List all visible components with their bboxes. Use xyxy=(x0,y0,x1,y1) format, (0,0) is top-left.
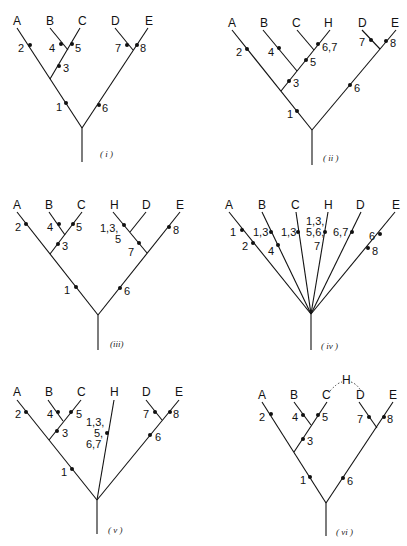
character-label: 7 xyxy=(357,413,363,425)
taxon-label: C xyxy=(77,385,86,399)
character-label: 5 xyxy=(76,408,82,420)
character-label: 3 xyxy=(63,62,69,74)
character-label: 4 xyxy=(268,245,274,257)
character-label: 4 xyxy=(292,411,298,423)
taxon-label: H xyxy=(324,198,333,212)
character-label: 3 xyxy=(62,240,68,252)
character-label: 8 xyxy=(173,408,179,420)
character-label: 8 xyxy=(390,37,396,49)
taxon-label: C xyxy=(78,14,87,28)
character-label: 1 xyxy=(64,284,70,296)
character-label: 1,3 xyxy=(253,226,268,238)
character-label: 4 xyxy=(49,42,55,54)
taxon-label: H xyxy=(110,385,119,399)
character-label: 1 xyxy=(61,466,67,478)
character-label: 7 xyxy=(128,246,134,258)
character-label: 7 xyxy=(314,240,320,252)
taxon-label: B xyxy=(46,14,54,28)
character-label: 3 xyxy=(62,427,68,439)
character-label: 4 xyxy=(47,221,53,233)
cladogram-panel-v: A B C H D E 2 4 5 3 1 1,3, 5, 6,7 7 8 6 … xyxy=(13,385,183,535)
character-label: 6,7 xyxy=(333,226,348,238)
panel-caption: (iii) xyxy=(110,339,124,349)
taxon-label: H xyxy=(342,373,351,387)
taxon-label: A xyxy=(258,388,266,402)
taxon-label: A xyxy=(228,16,236,30)
character-label: 1 xyxy=(56,101,62,113)
taxon-label: D xyxy=(356,388,365,402)
character-label: 6 xyxy=(155,431,161,443)
character-label: 5 xyxy=(115,233,121,245)
cladogram-panel-iii: A B C H D E 2 4 5 3 1 1,3, 5 7 8 6 (iii) xyxy=(13,198,184,350)
taxon-label: D xyxy=(356,198,365,212)
character-label: 2 xyxy=(259,411,265,423)
taxon-label: E xyxy=(145,14,153,28)
character-label: 8 xyxy=(372,245,378,257)
panel-caption: ( ii ) xyxy=(323,153,339,163)
cladogram-panel-iv: A B C H D E 1 2 1,3 4 1,3 1,3, 5,6, 7 6,… xyxy=(225,198,400,351)
character-label: 2 xyxy=(242,240,248,252)
taxon-label: B xyxy=(260,16,268,30)
character-label: 5 xyxy=(76,221,82,233)
taxon-label: E xyxy=(176,198,184,212)
taxon-label: B xyxy=(258,198,266,212)
taxon-label: E xyxy=(392,198,400,212)
taxon-label: D xyxy=(142,385,151,399)
character-label: 2 xyxy=(236,46,242,58)
panel-caption: ( i ) xyxy=(100,149,113,159)
character-label: 4 xyxy=(268,46,274,58)
character-label: 8 xyxy=(387,413,393,425)
taxon-label: A xyxy=(13,14,21,28)
taxon-label: D xyxy=(358,16,367,30)
character-label: 6,7 xyxy=(322,41,337,53)
taxon-label: D xyxy=(111,14,120,28)
character-label: 2 xyxy=(15,408,21,420)
taxon-label: A xyxy=(13,385,21,399)
taxon-label: E xyxy=(389,388,397,402)
taxon-label: C xyxy=(292,16,301,30)
character-label: 5 xyxy=(75,42,81,54)
cladogram-figure: A B C D E 2 4 5 3 1 7 8 6 ( i ) A B C H xyxy=(0,0,407,546)
taxon-label: D xyxy=(142,198,151,212)
taxon-label: E xyxy=(391,16,399,30)
character-label: 1 xyxy=(230,226,236,238)
character-label: 5 xyxy=(310,56,316,68)
character-label: 1 xyxy=(287,108,293,120)
taxon-label: H xyxy=(110,198,119,212)
cladogram-panel-i: A B C D E 2 4 5 3 1 7 8 6 ( i ) xyxy=(13,14,153,162)
cladogram-panel-vi: A B C H D E 2 4 5 3 1 7 8 6 ( vi ) xyxy=(258,373,397,537)
taxon-label: A xyxy=(225,198,233,212)
character-label: 8 xyxy=(140,42,146,54)
character-label: 6 xyxy=(102,102,108,114)
character-label: 7 xyxy=(359,36,365,48)
character-label: 3 xyxy=(307,435,313,447)
character-label: 1 xyxy=(300,474,306,486)
taxon-label: A xyxy=(13,198,21,212)
character-label: 6,7 xyxy=(86,438,101,450)
panel-caption: ( vi ) xyxy=(336,527,353,537)
character-label: 8 xyxy=(173,224,179,236)
panel-caption: ( v ) xyxy=(108,525,123,535)
character-label: 5,6, xyxy=(306,226,324,238)
character-label: 6 xyxy=(347,475,353,487)
taxon-label: C xyxy=(322,388,331,402)
taxon-label: H xyxy=(324,16,333,30)
taxon-label: B xyxy=(290,388,298,402)
taxon-label: B xyxy=(45,198,53,212)
character-label: 5 xyxy=(322,411,328,423)
character-label: 7 xyxy=(115,42,121,54)
character-label: 6 xyxy=(369,230,375,242)
taxon-label: B xyxy=(45,385,53,399)
taxon-label: E xyxy=(175,385,183,399)
taxon-label: C xyxy=(291,198,300,212)
character-label: 1,3 xyxy=(281,226,296,238)
character-label: 3 xyxy=(293,77,299,89)
character-label: 6 xyxy=(354,82,360,94)
character-label: 2 xyxy=(15,221,21,233)
character-label: 4 xyxy=(47,408,53,420)
character-label: 2 xyxy=(18,42,24,54)
cladogram-panel-ii: A B C H D E 2 4 6,7 5 3 1 7 8 6 ( ii ) xyxy=(228,16,399,165)
character-label: 7 xyxy=(143,408,149,420)
taxon-label: C xyxy=(77,198,86,212)
character-label: 6 xyxy=(124,285,130,297)
